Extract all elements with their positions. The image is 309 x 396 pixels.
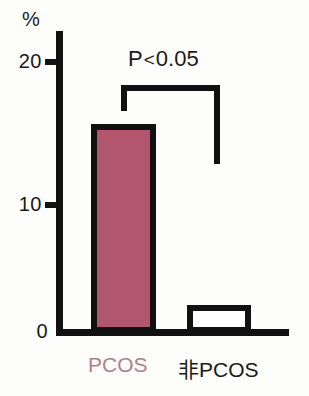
bar-chart-figure: % 20 10 0 P<0.05 PCOS 非PCOS	[0, 0, 309, 396]
p-value-number: 0.05	[156, 46, 199, 71]
significance-bracket-right-arm	[214, 85, 220, 164]
p-value-annotation: P<0.05	[128, 46, 199, 72]
significance-bracket-top	[121, 85, 220, 91]
category-label-non-pcos: 非PCOS	[178, 353, 259, 383]
y-tick-mark-10	[45, 202, 59, 208]
p-value-prefix: P	[128, 46, 143, 71]
category-label-pcos: PCOS	[88, 353, 148, 377]
y-axis-line	[56, 31, 63, 335]
y-tick-label-10: 10	[2, 193, 42, 216]
y-tick-mark-20	[45, 59, 59, 65]
less-than-icon: <	[143, 49, 156, 70]
significance-bracket-left-arm	[121, 85, 127, 111]
bar-non-pcos	[187, 305, 251, 333]
y-tick-label-0: 0	[8, 320, 48, 343]
y-axis-unit-label: %	[22, 8, 40, 31]
bar-pcos	[91, 124, 156, 333]
y-tick-label-20: 20	[2, 50, 42, 73]
